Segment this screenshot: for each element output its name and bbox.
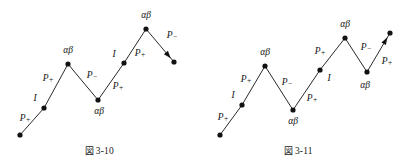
segment-label: P+ (113, 82, 123, 92)
vertex-dot (364, 69, 369, 74)
path-segment (44, 64, 68, 108)
path-segment (242, 66, 265, 105)
segment-label: P− (87, 71, 97, 81)
figure-3-11-caption: 図3-11 (199, 144, 398, 157)
vertex-dot (317, 67, 322, 72)
vertex-label: I (327, 74, 330, 84)
figure-3-10-graphic (0, 0, 199, 150)
vertex-label: I (33, 94, 36, 104)
vertex-dot (41, 105, 46, 110)
segment-label: P+ (20, 114, 30, 124)
vertex-dot (290, 107, 295, 112)
arrowhead (381, 37, 387, 45)
segment-label: P+ (382, 57, 392, 67)
figure-caption-number: 3-10 (96, 146, 114, 156)
segment-label: P− (167, 31, 177, 41)
segment-label: P+ (43, 74, 53, 84)
vertex-dot (65, 61, 70, 66)
vertex-dot (342, 35, 347, 40)
vertex-label: αβ (260, 48, 270, 58)
vertex-dot (239, 102, 244, 107)
figure-3-11: IαβαβIαβαβP+P+P−P+P+P−P+ 図3-11 (199, 0, 398, 166)
vertex-label: αβ (360, 81, 370, 91)
segment-label: P+ (135, 49, 145, 59)
vertex-dot (217, 132, 222, 137)
vertex-label: αβ (141, 11, 151, 21)
segment-label: P+ (218, 113, 228, 123)
vertex-label: αβ (288, 117, 298, 127)
figure-pair: IαβαβIαβP+P+P−P+P+P− 図3-10 IαβαβIαβαβP+P… (0, 0, 398, 166)
vertex-dot (387, 30, 392, 35)
path-segment (68, 64, 98, 100)
figure-caption-prefix: 図 (284, 146, 293, 156)
vertex-dot (121, 60, 126, 65)
figure-3-11-graphic (199, 0, 398, 150)
vertex-label: I (112, 50, 115, 60)
segment-label: P+ (307, 94, 317, 104)
vertex-dot (95, 97, 100, 102)
vertex-dot (262, 63, 267, 68)
figure-caption-prefix: 図 (85, 146, 94, 156)
vertex-label: αβ (340, 20, 350, 30)
segment-label: P+ (241, 75, 251, 85)
vertex-dot (143, 26, 148, 31)
vertex-dot (171, 59, 176, 64)
figure-3-10: IαβαβIαβP+P+P−P+P+P− 図3-10 (0, 0, 199, 166)
segment-label: P− (361, 43, 371, 53)
vertex-label: αβ (94, 107, 104, 117)
figure-caption-number: 3-11 (295, 146, 313, 156)
segment-label: P+ (315, 47, 325, 57)
segment-label: P− (282, 78, 292, 88)
vertex-label: αβ (63, 46, 73, 56)
figure-3-10-caption: 図3-10 (0, 144, 199, 157)
vertex-label: I (231, 91, 234, 101)
vertex-dot (17, 132, 22, 137)
